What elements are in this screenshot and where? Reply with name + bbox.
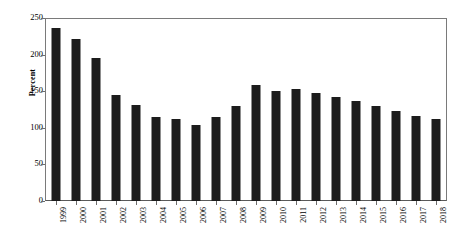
bar-slot	[246, 19, 266, 201]
x-axis-tick-label: 2009	[260, 207, 268, 247]
x-axis-tick-label: 1999	[60, 207, 68, 247]
y-axis-tick-label: 250	[9, 13, 43, 22]
bar	[92, 58, 101, 201]
bar	[412, 116, 421, 201]
x-axis-tick-label: 2014	[360, 207, 368, 247]
x-axis-tick-mark	[196, 201, 197, 205]
x-axis-tick-mark	[336, 201, 337, 205]
x-axis-tick-mark	[176, 201, 177, 205]
x-axis-tick-label: 2008	[240, 207, 248, 247]
x-axis-tick-mark	[236, 201, 237, 205]
bar-slot	[126, 19, 146, 201]
x-axis-tick-label: 2016	[400, 207, 408, 247]
bar	[292, 89, 301, 201]
bar-slot	[226, 19, 246, 201]
bar	[212, 117, 221, 201]
x-axis-tick-mark	[56, 201, 57, 205]
bar-slot	[266, 19, 286, 201]
bar-slot	[326, 19, 346, 201]
y-axis-tick-label: 200	[9, 50, 43, 59]
bar	[112, 95, 121, 201]
bar-slot	[106, 19, 126, 201]
y-axis-tick-mark	[41, 91, 45, 92]
x-axis-tick-mark	[116, 201, 117, 205]
x-axis-tick-label: 2004	[160, 207, 168, 247]
x-axis-tick-label: 2013	[340, 207, 348, 247]
x-axis-tick-label: 2012	[320, 207, 328, 247]
bar-slot	[86, 19, 106, 201]
x-axis-tick-label: 2011	[300, 207, 308, 247]
bar	[432, 119, 441, 201]
bar	[392, 111, 401, 201]
x-axis-tick-label: 2001	[100, 207, 108, 247]
x-axis-tick-label: 2000	[80, 207, 88, 247]
bar-slot	[306, 19, 326, 201]
y-axis-tick-label: 100	[9, 123, 43, 132]
bar-slot	[386, 19, 406, 201]
x-axis-tick-label: 2003	[140, 207, 148, 247]
y-axis-tick-mark	[41, 18, 45, 19]
x-axis-tick-label: 2005	[180, 207, 188, 247]
bar	[252, 85, 261, 201]
bar	[312, 93, 321, 201]
bar-slot	[66, 19, 86, 201]
x-axis-tick-mark	[96, 201, 97, 205]
bar	[72, 39, 81, 201]
bar-chart: Percent 19992000200120022003200420052006…	[0, 0, 462, 249]
x-axis-tick-label: 2002	[120, 207, 128, 247]
y-axis-tick-label: 150	[9, 86, 43, 95]
bar	[152, 117, 161, 201]
x-axis-tick-mark	[356, 201, 357, 205]
x-axis-tick-mark	[76, 201, 77, 205]
bar-slot	[346, 19, 366, 201]
x-axis-tick-mark	[136, 201, 137, 205]
bar-slot	[426, 19, 446, 201]
bar	[232, 106, 241, 201]
y-axis-tick-label: 0	[9, 196, 43, 205]
x-axis-tick-mark	[256, 201, 257, 205]
x-axis-tick-mark	[156, 201, 157, 205]
bar	[272, 91, 281, 201]
bar	[192, 125, 201, 201]
bar	[372, 106, 381, 201]
x-axis-tick-mark	[416, 201, 417, 205]
y-axis-tick-mark	[41, 201, 45, 202]
bar-slot	[406, 19, 426, 201]
x-axis-tick-mark	[276, 201, 277, 205]
bar-slot	[186, 19, 206, 201]
x-axis-tick-label: 2015	[380, 207, 388, 247]
bar	[132, 105, 141, 201]
x-axis-tick-mark	[296, 201, 297, 205]
bar	[52, 28, 61, 201]
x-axis-tick-label: 2010	[280, 207, 288, 247]
x-axis-tick-mark	[316, 201, 317, 205]
y-axis-tick-mark	[41, 128, 45, 129]
bar-slot	[206, 19, 226, 201]
y-axis-tick-mark	[41, 164, 45, 165]
bar	[352, 101, 361, 201]
x-axis-tick-mark	[436, 201, 437, 205]
bar-slot	[366, 19, 386, 201]
bar	[172, 119, 181, 201]
x-axis-tick-label: 2007	[220, 207, 228, 247]
x-axis-tick-label: 2018	[440, 207, 448, 247]
y-axis-title: Percent	[28, 53, 37, 113]
x-axis-tick-label: 2006	[200, 207, 208, 247]
bar-slot	[146, 19, 166, 201]
x-axis-tick-group: 1999200020012002200320042005200620072008…	[46, 201, 446, 249]
bar	[332, 97, 341, 201]
bar-series	[46, 19, 446, 201]
x-axis-tick-mark	[376, 201, 377, 205]
y-axis-tick-mark	[41, 55, 45, 56]
y-axis-tick-label: 50	[9, 159, 43, 168]
x-axis-tick-label: 2017	[420, 207, 428, 247]
bar-slot	[166, 19, 186, 201]
x-axis-tick-mark	[216, 201, 217, 205]
x-axis-tick-mark	[396, 201, 397, 205]
bar-slot	[286, 19, 306, 201]
bar-slot	[46, 19, 66, 201]
